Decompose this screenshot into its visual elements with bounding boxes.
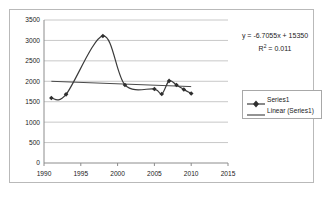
- trendline-equation: y = -6.7055x + 15350: [225, 30, 325, 41]
- chart-frame: 0500100015002000250030003500 19901995200…: [9, 9, 314, 183]
- x-tick-label: 1995: [73, 170, 88, 177]
- r-squared-value: R2 = 0.011: [225, 41, 325, 54]
- chart-legend: Series1 Linear (Series1): [242, 90, 322, 119]
- legend-key-marker-line: [246, 95, 266, 105]
- legend-label-linear-series1: Linear (Series1): [266, 107, 314, 114]
- x-tick-label: 2015: [221, 170, 236, 177]
- gridlines: [44, 20, 228, 163]
- y-tick-label: 3500: [25, 16, 40, 23]
- series1-line-path: [51, 36, 191, 100]
- legend-label-series1: Series1: [266, 96, 289, 103]
- y-tick-label: 1000: [25, 119, 40, 126]
- x-tick-label: 2000: [110, 170, 125, 177]
- y-tick-label: 3000: [25, 37, 40, 44]
- data-point-marker: [152, 87, 157, 92]
- legend-item-linear-series1[interactable]: Linear (Series1): [246, 105, 318, 116]
- data-point-marker: [189, 91, 194, 96]
- data-point-marker: [49, 96, 54, 101]
- legend-key-line: [246, 106, 266, 116]
- x-tick-label: 2005: [147, 170, 162, 177]
- r-squared-suffix: = 0.011: [266, 45, 291, 52]
- legend-item-series1[interactable]: Series1: [246, 94, 318, 105]
- trendline-annotation: y = -6.7055x + 15350 R2 = 0.011: [225, 30, 325, 54]
- y-tick-label: 500: [29, 139, 40, 146]
- data-point-marker: [101, 34, 106, 39]
- y-tick-label: 0: [36, 159, 40, 166]
- y-tick-label: 1500: [25, 98, 40, 105]
- x-tick-label: 2010: [184, 170, 199, 177]
- y-tick-label: 2500: [25, 57, 40, 64]
- y-tick-label: 2000: [25, 78, 40, 85]
- series1-markers: [49, 34, 193, 101]
- x-tick-label: 1990: [37, 170, 52, 177]
- y-axis-tick-labels: 0500100015002000250030003500: [25, 16, 40, 166]
- x-axis-tick-labels: 199019952000200520102015: [37, 170, 236, 177]
